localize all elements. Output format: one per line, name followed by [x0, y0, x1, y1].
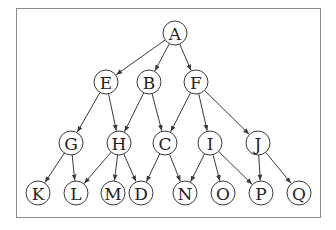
node-label: B — [143, 73, 156, 93]
edge-e-g — [77, 92, 100, 132]
node-label: L — [70, 184, 81, 204]
node-label: H — [112, 134, 127, 154]
node-label: O — [216, 184, 230, 204]
node-k: K — [26, 181, 50, 205]
edge-b-h — [125, 93, 144, 132]
node-e: E — [94, 70, 118, 94]
edge-f-j — [205, 90, 250, 134]
node-q: Q — [287, 181, 311, 205]
node-f: F — [184, 70, 208, 94]
edge-c-n — [169, 154, 180, 181]
node-label: G — [64, 134, 78, 154]
node-label: F — [190, 73, 202, 93]
graph-canvas: AEBFGHCIJKLMDNOPQ — [0, 0, 336, 230]
edge-a-f — [180, 44, 191, 70]
edge-c-d — [146, 154, 159, 182]
edge-i-n — [191, 154, 205, 182]
edge-j-q — [266, 152, 291, 183]
node-m: M — [101, 181, 125, 205]
node-c: C — [153, 131, 177, 155]
edge-e-h — [109, 94, 117, 131]
node-label: E — [100, 73, 112, 93]
node-a: A — [163, 21, 187, 45]
node-b: B — [137, 70, 161, 94]
edge-a-b — [155, 44, 170, 71]
node-label: N — [178, 184, 193, 204]
edges-layer — [45, 40, 291, 184]
node-label: P — [255, 184, 266, 204]
nodes-layer: AEBFGHCIJKLMDNOPQ — [26, 21, 311, 205]
node-j: J — [246, 131, 270, 155]
edge-h-d — [124, 154, 136, 182]
node-label: I — [207, 134, 214, 154]
node-label: A — [168, 24, 182, 44]
edge-g-l — [72, 155, 75, 181]
node-n: N — [173, 181, 197, 205]
edge-i-p — [219, 151, 253, 184]
node-h: H — [107, 131, 131, 155]
node-l: L — [64, 181, 88, 205]
edge-i-o — [213, 155, 220, 181]
node-p: P — [249, 181, 273, 205]
edge-g-k — [45, 153, 65, 183]
node-g: G — [59, 131, 83, 155]
node-d: D — [129, 181, 153, 205]
edge-f-i — [199, 94, 208, 131]
edge-b-c — [152, 94, 162, 131]
node-label: C — [158, 134, 171, 154]
edge-h-l — [84, 152, 111, 183]
node-o: O — [211, 181, 235, 205]
node-label: D — [134, 184, 148, 204]
edge-h-m — [114, 155, 117, 181]
node-label: K — [32, 184, 45, 204]
edge-f-c — [171, 93, 191, 132]
node-label: J — [253, 134, 262, 154]
node-label: Q — [292, 184, 306, 204]
node-label: M — [104, 184, 121, 204]
edge-a-e — [116, 40, 165, 75]
edge-j-p — [259, 155, 261, 181]
node-i: I — [198, 131, 222, 155]
